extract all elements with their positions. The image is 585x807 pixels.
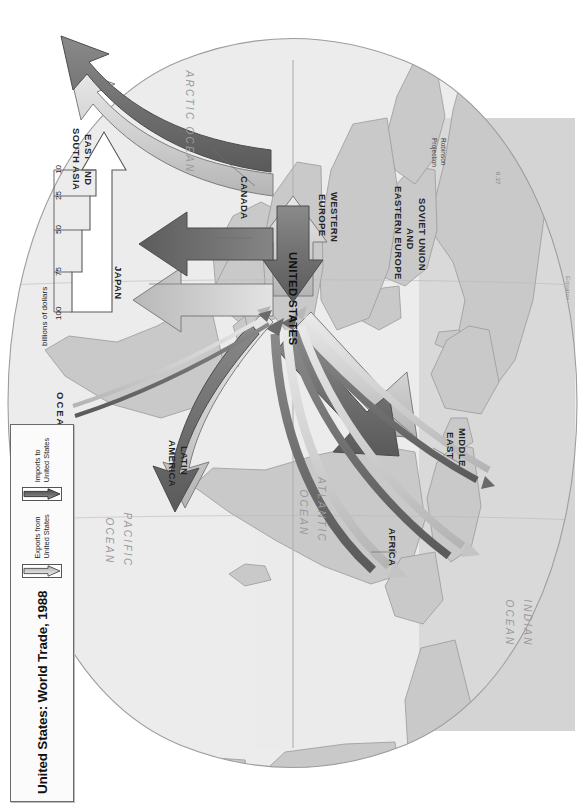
- label-latin-america-l1: LATIN: [178, 446, 189, 475]
- label-united-states: UNITED STATES: [286, 252, 299, 346]
- label-pacific-ocean-l1: PACIFIC: [122, 500, 133, 580]
- title-legend-box: United States: World Trade, 1988: [10, 424, 74, 802]
- page-title: United States: World Trade, 1988: [35, 591, 50, 794]
- label-indian-ocean-l1: INDIAN: [522, 588, 533, 658]
- label-western-europe-l1: WESTERN: [328, 192, 339, 242]
- scale-arrow-graphic: [38, 100, 134, 346]
- scale-tick-75: 75: [54, 267, 63, 276]
- scale-tick-25: 25: [54, 191, 63, 200]
- scale-legend: billions of dollars 100 75 50 25 10: [38, 100, 134, 346]
- projection-note-line2: Projection: [430, 138, 438, 167]
- label-latin-america-l2: AMERICA: [166, 440, 177, 487]
- label-soviet-union-l2: AND: [404, 228, 415, 250]
- legend-imports-line1: Imports to: [33, 438, 42, 482]
- label-africa: AFRICA: [386, 528, 397, 566]
- legend-item-exports: Exports from United States: [22, 514, 62, 577]
- label-western-europe-l2: EUROPE: [316, 194, 327, 237]
- legend-imports-text: Imports to United States: [33, 438, 51, 482]
- scale-tick-10: 10: [54, 165, 63, 174]
- corner-mark: 0.37: [494, 172, 501, 184]
- label-arctic-ocean: ARCTIC OCEAN: [184, 62, 195, 182]
- legend-exports-text: Exports from United States: [33, 514, 51, 558]
- label-soviet-union-l3: EASTERN EUROPE: [392, 186, 403, 280]
- scale-tick-100: 100: [54, 307, 63, 320]
- projection-note-line1: Robinson: [439, 138, 447, 165]
- legend-item-imports: Imports to United States: [22, 438, 62, 501]
- legend-exports-line1: Exports from: [33, 514, 42, 558]
- label-atlantic-ocean-l1: ATLANTIC: [316, 470, 327, 550]
- label-canada: CANADA: [238, 176, 249, 220]
- import-arrow-swatch: [22, 487, 62, 501]
- export-arrow-swatch: [22, 564, 62, 578]
- label-indian-ocean-l2: OCEAN: [504, 592, 515, 654]
- scale-title: billions of dollars: [40, 287, 49, 346]
- label-middle-east-l2: EAST: [444, 432, 455, 459]
- label-soviet-union-l1: SOVIET UNION: [416, 198, 427, 271]
- legend-exports-line2: United States: [42, 514, 51, 558]
- label-atlantic-ocean-l2: OCEAN: [298, 478, 309, 548]
- label-equator: Equator: [564, 276, 571, 300]
- label-middle-east-l1: MIDDLE: [456, 428, 467, 467]
- legend-imports-line2: United States: [42, 438, 51, 482]
- label-pacific-ocean-l2: OCEAN: [104, 506, 115, 576]
- map-page: ARCTIC OCEAN ATLANTIC OCEAN PACIFIC OCEA…: [0, 0, 585, 807]
- scale-tick-50: 50: [54, 225, 63, 234]
